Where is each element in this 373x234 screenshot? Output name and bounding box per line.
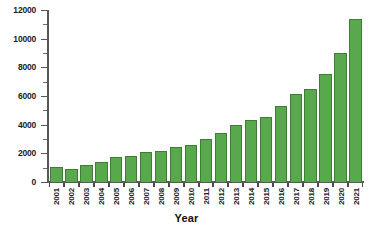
y-axis-major-tick bbox=[41, 125, 47, 126]
bar-slot bbox=[199, 11, 214, 182]
bar[interactable] bbox=[275, 106, 287, 182]
x-axis-tick-label: 2015 bbox=[261, 188, 270, 205]
x-axis-tick bbox=[64, 183, 79, 187]
bar[interactable] bbox=[230, 125, 242, 182]
bar-slot bbox=[258, 11, 273, 182]
x-axis-tick-label-slot: 2019 bbox=[318, 188, 333, 212]
bar[interactable] bbox=[155, 151, 167, 182]
bar[interactable] bbox=[185, 145, 197, 182]
x-axis-tick bbox=[333, 183, 348, 187]
y-axis-tick-label: 4000 bbox=[18, 120, 41, 130]
bar[interactable] bbox=[349, 19, 361, 182]
x-axis-tick-label: 2021 bbox=[351, 188, 360, 205]
bar-slot bbox=[243, 11, 258, 182]
x-axis-tick bbox=[109, 183, 124, 187]
bar-slot bbox=[109, 11, 124, 182]
x-axis-tick bbox=[258, 183, 273, 187]
x-axis-tick-label-slot: 2017 bbox=[288, 188, 303, 212]
x-axis-tick-label-slot: 2018 bbox=[303, 188, 318, 212]
bar[interactable] bbox=[200, 139, 212, 182]
x-axis-tick bbox=[273, 183, 288, 187]
x-axis-tick bbox=[318, 183, 333, 187]
x-axis-tick-label: 2014 bbox=[246, 188, 255, 205]
x-axis-tick-label-slot: 2015 bbox=[258, 188, 273, 212]
y-axis-minor-tick bbox=[43, 82, 47, 83]
bar[interactable] bbox=[50, 167, 62, 182]
x-axis-tick-label-slot: 2012 bbox=[213, 188, 228, 212]
x-axis-tick bbox=[94, 183, 109, 187]
x-axis-tick-label: 2016 bbox=[276, 188, 285, 205]
x-axis-tick-label-slot: 2006 bbox=[124, 188, 139, 212]
x-axis-tick-label: 2004 bbox=[97, 188, 106, 205]
x-axis-tick-label-slot: 2004 bbox=[94, 188, 109, 212]
bar-slot bbox=[124, 11, 139, 182]
x-axis-tick bbox=[124, 183, 139, 187]
x-axis-tick-label-slot: 2021 bbox=[348, 188, 363, 212]
x-axis-tick-label: 2017 bbox=[291, 188, 300, 205]
x-axis-tick bbox=[199, 183, 214, 187]
y-axis-tick-label: 2000 bbox=[18, 148, 41, 158]
bar[interactable] bbox=[319, 74, 331, 182]
bar[interactable] bbox=[65, 169, 77, 182]
x-axis-tick-label: 2007 bbox=[142, 188, 151, 205]
x-axis-tick-label: 2002 bbox=[67, 188, 76, 205]
bar-slot bbox=[94, 11, 109, 182]
x-axis-tick-label: 2003 bbox=[82, 188, 91, 205]
bar[interactable] bbox=[245, 120, 257, 182]
x-axis-tick-label-slot: 2002 bbox=[64, 188, 79, 212]
x-axis-tick-label-slot: 2003 bbox=[79, 188, 94, 212]
y-axis-minor-tick bbox=[43, 110, 47, 111]
y-axis-major-tick bbox=[41, 153, 47, 154]
x-axis-tick-label: 2009 bbox=[172, 188, 181, 205]
bar[interactable] bbox=[215, 133, 227, 182]
bar-slot bbox=[228, 11, 243, 182]
x-axis-tick bbox=[139, 183, 154, 187]
bar[interactable] bbox=[110, 157, 122, 183]
bar[interactable] bbox=[95, 162, 107, 182]
x-axis-tick-label: 2011 bbox=[202, 188, 211, 205]
bar-slot bbox=[213, 11, 228, 182]
bar[interactable] bbox=[304, 89, 316, 182]
y-axis-tick-label: 8000 bbox=[18, 62, 41, 72]
bar-slot bbox=[288, 11, 303, 182]
x-axis-title: Year bbox=[0, 212, 373, 224]
x-axis-tick-label-slot: 2016 bbox=[273, 188, 288, 212]
x-axis-tick bbox=[49, 183, 64, 187]
x-axis-tick bbox=[184, 183, 199, 187]
bar[interactable] bbox=[334, 53, 346, 182]
bar[interactable] bbox=[170, 147, 182, 182]
y-axis-major-tick bbox=[41, 10, 47, 11]
x-axis-tick-label: 2010 bbox=[187, 188, 196, 205]
x-axis-tick bbox=[243, 183, 258, 187]
x-axis-tick bbox=[348, 183, 363, 187]
x-axis-tick-labels: 2001200220032004200520062007200820092010… bbox=[49, 188, 363, 212]
bar[interactable] bbox=[260, 117, 272, 182]
x-axis-tick-label-slot: 2009 bbox=[169, 188, 184, 212]
x-axis-tick-label-slot: 2010 bbox=[184, 188, 199, 212]
x-axis-tick bbox=[288, 183, 303, 187]
bar[interactable] bbox=[140, 152, 152, 182]
x-axis-tick-label-slot: 2005 bbox=[109, 188, 124, 212]
x-axis-tick-label-slot: 2014 bbox=[243, 188, 258, 212]
bar[interactable] bbox=[290, 94, 302, 182]
bar[interactable] bbox=[80, 165, 92, 182]
x-axis-tick bbox=[213, 183, 228, 187]
bar-slot bbox=[348, 11, 363, 182]
bar-slot bbox=[333, 11, 348, 182]
bar[interactable] bbox=[125, 156, 137, 182]
x-axis-tick-label: 2020 bbox=[336, 188, 345, 205]
bar-slot bbox=[154, 11, 169, 182]
x-axis-tick-label: 2008 bbox=[157, 188, 166, 205]
bar-slot bbox=[64, 11, 79, 182]
bar-slot bbox=[139, 11, 154, 182]
bar-series bbox=[49, 11, 363, 182]
x-axis-ticks bbox=[49, 183, 363, 187]
x-axis-tick-label-slot: 2008 bbox=[154, 188, 169, 212]
x-axis-tick-label-slot: 2011 bbox=[199, 188, 214, 212]
y-axis-minor-tick bbox=[43, 168, 47, 169]
x-axis-tick bbox=[228, 183, 243, 187]
y-axis-minor-tick bbox=[43, 139, 47, 140]
bar-slot bbox=[303, 11, 318, 182]
y-axis-minor-tick bbox=[43, 24, 47, 25]
bar-slot bbox=[169, 11, 184, 182]
